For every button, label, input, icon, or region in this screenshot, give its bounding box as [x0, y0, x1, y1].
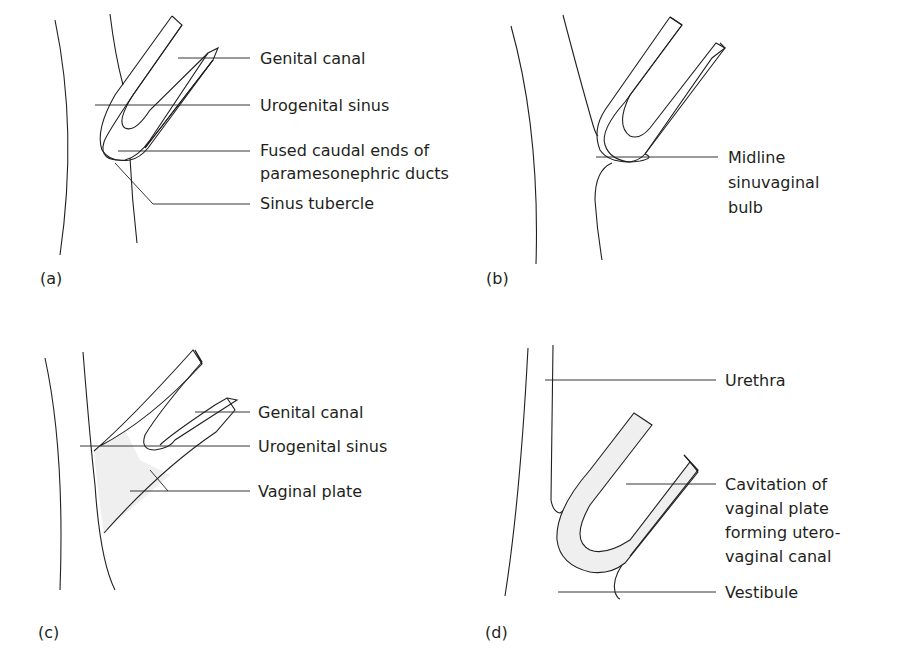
vestibule-wall [614, 565, 622, 599]
urogenital-sinus-wall-lower [130, 158, 137, 243]
panel-tag-a: (a) [40, 269, 62, 288]
body-wall-outline [505, 348, 528, 596]
label-urethra: Urethra [725, 371, 786, 390]
diagram-canvas: Genital canal Urogenital sinus Fused cau… [0, 0, 898, 666]
label-cavitation-line3: forming utero- [725, 523, 840, 542]
label-fused-caudal-ends-line1: Fused caudal ends of [260, 141, 429, 160]
label-sinuvaginal-bulb-line2: sinuvaginal [728, 173, 819, 192]
panel-d: Urethra Cavitation of vaginal plate form… [485, 345, 840, 642]
body-wall-outline [45, 358, 61, 590]
paramesonephric-duct-tip-top [670, 17, 682, 25]
uterovaginal-canal-fill [557, 413, 698, 573]
urogenital-sinus-wall-upper [110, 14, 123, 85]
paramesonephric-duct-outer [604, 17, 725, 162]
leader-line-sinus-tubercle [115, 163, 250, 204]
sinus-wall-upper [563, 15, 598, 136]
vaginal-plate-fill [94, 430, 170, 533]
panel-c: Genital canal Urogenital sinus Vaginal p… [38, 350, 387, 642]
sinus-wall-lower [595, 163, 612, 260]
label-vaginal-plate: Vaginal plate [258, 482, 362, 501]
label-urogenital-sinus: Urogenital sinus [260, 96, 389, 115]
label-sinus-tubercle: Sinus tubercle [260, 194, 374, 213]
panel-a: Genital canal Urogenital sinus Fused cau… [40, 14, 449, 288]
label-cavitation-line2: vaginal plate [725, 499, 829, 518]
label-cavitation-line1: Cavitation of [725, 475, 827, 494]
panel-tag-b: (b) [486, 269, 509, 288]
label-sinuvaginal-bulb-line1: Midline [728, 148, 785, 167]
body-wall-outline [511, 26, 536, 264]
panel-tag-c: (c) [38, 623, 59, 642]
duct-outer-curve [100, 16, 213, 161]
label-cavitation-line4: vaginal canal [725, 547, 831, 566]
panel-b: Midline sinuvaginal bulb (b) [486, 15, 819, 288]
label-sinuvaginal-bulb-line3: bulb [728, 198, 763, 217]
label-vestibule: Vestibule [725, 583, 798, 602]
label-fused-caudal-ends-line2: paramesonephric ducts [260, 164, 449, 183]
urethra-wall [551, 345, 570, 513]
duct-inner-lumen [122, 25, 213, 148]
duct-inner-wall [144, 350, 237, 450]
duct-upper-wall [94, 350, 202, 451]
label-genital-canal: Genital canal [258, 403, 363, 422]
label-genital-canal: Genital canal [260, 49, 365, 68]
label-urogenital-sinus: Urogenital sinus [258, 437, 387, 456]
panel-tag-d: (d) [485, 623, 508, 642]
paramesonephric-duct-inner [623, 25, 726, 154]
body-wall-outline [55, 20, 68, 255]
